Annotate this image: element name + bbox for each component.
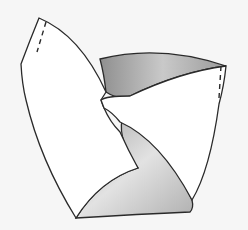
folded-paper-sketch xyxy=(0,0,248,230)
sketch-canvas xyxy=(0,0,248,230)
